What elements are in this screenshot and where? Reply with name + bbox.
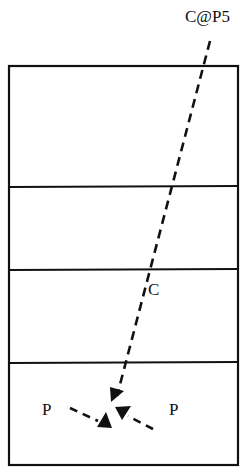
arrowhead-right (115, 406, 131, 420)
label-player-right: P (169, 401, 178, 418)
label-c: C (148, 281, 159, 298)
court-diagram (0, 0, 246, 471)
label-c-at-p5: C@P5 (185, 8, 230, 25)
arrowhead-left (97, 412, 112, 428)
dashed-path-right (115, 406, 153, 429)
arrowhead-main (110, 387, 124, 402)
dashed-path-main (110, 41, 210, 402)
label-player-left: P (42, 401, 51, 418)
dashed-path-left (70, 408, 112, 428)
